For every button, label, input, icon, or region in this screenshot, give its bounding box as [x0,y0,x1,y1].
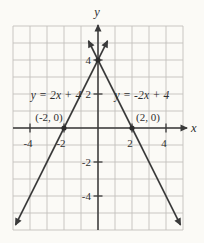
graph-panel: y = 2x + 4 y = -2x + 4 (-2, 0) (2, 0) -4… [0,0,204,243]
graph-canvas: y = 2x + 4 y = -2x + 4 (-2, 0) (2, 0) -4… [0,0,204,243]
plot-geometry [13,25,187,230]
x-axis-label: x [190,121,197,135]
x-tick-label-2: 2 [127,137,133,149]
data-point [61,125,66,130]
equation-label-left: y = 2x + 4 [30,89,82,102]
data-point [95,57,100,62]
y-tick-label-neg2: -2 [82,156,91,168]
point-label-right: (2, 0) [136,111,160,124]
point-label-left: (-2, 0) [35,111,63,124]
y-tick-label-neg4: -4 [82,190,92,202]
x-tick-label-4: 4 [161,137,167,149]
equation-label-right: y = -2x + 4 [114,89,170,102]
y-axis-label: y [92,5,100,19]
data-point [129,125,134,130]
y-tick-label-4: 4 [86,54,92,66]
x-tick-label-neg4: -4 [23,137,33,149]
x-tick-label-neg2: -2 [56,137,65,149]
line-rising [16,41,108,225]
y-tick-label-2: 2 [86,88,92,100]
plot-labels: y = 2x + 4 y = -2x + 4 (-2, 0) (2, 0) -4… [23,5,197,202]
line-falling [88,41,180,225]
